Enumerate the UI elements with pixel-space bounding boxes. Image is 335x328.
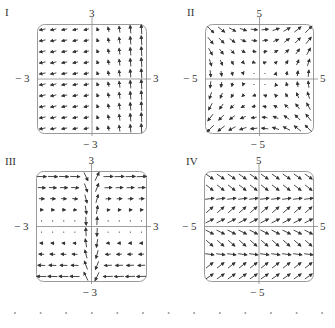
tick-label-bottom: − 5: [250, 286, 264, 298]
vector-arrow: [239, 185, 246, 190]
vector-arrow: [295, 38, 300, 43]
vector-arrow: [108, 71, 109, 76]
vector-arrow: [294, 174, 301, 179]
vector-arrow: [286, 94, 288, 98]
vector-arrow: [217, 274, 224, 279]
vector-arrow: [40, 117, 46, 118]
vector-arrow: [221, 71, 222, 76]
vector-arrow: [96, 239, 97, 247]
vector-arrow: [40, 51, 46, 52]
vector-arrow: [283, 207, 290, 213]
vector-arrow: [40, 73, 46, 74]
vector-arrow: [243, 72, 244, 74]
vector-arrow: [51, 117, 57, 118]
vector-arrow: [238, 254, 247, 255]
vector-arrow: [62, 29, 67, 30]
vector-arrow: [119, 92, 120, 98]
tick-label-right: 5: [320, 72, 326, 84]
vector-arrow: [73, 95, 78, 96]
vector-arrow: [97, 127, 98, 130]
vector-arrow: [261, 263, 268, 268]
vector-arrow: [210, 70, 211, 77]
tick-label-bottom: − 5: [251, 138, 265, 150]
vector-arrow: [241, 105, 245, 107]
vector-arrow: [253, 95, 255, 96]
vector-arrow: [274, 105, 278, 107]
vector-arrow: [304, 198, 313, 199]
vector-arrow: [73, 117, 78, 118]
vector-arrow: [250, 274, 257, 279]
vector-arrow: [283, 185, 290, 190]
tick-label-left: − 3: [15, 72, 29, 84]
vector-arrow: [240, 127, 247, 129]
vector-arrow: [304, 254, 313, 255]
vector-arrow: [62, 40, 67, 41]
vector-arrow: [73, 62, 78, 63]
vector-arrow: [130, 26, 131, 34]
vector-arrow: [205, 254, 214, 255]
vector-arrow: [305, 185, 312, 190]
vector-arrow: [218, 126, 225, 131]
vector-arrow: [108, 49, 109, 54]
vector-arrow: [62, 95, 67, 96]
vector-arrow: [239, 174, 246, 179]
vector-arrow: [283, 28, 290, 32]
vector-arrow: [260, 254, 269, 255]
vector-arrow: [84, 40, 89, 41]
vector-arrow: [261, 185, 268, 190]
vector-arrow: [119, 59, 120, 65]
panel-label-iii: III: [5, 155, 16, 167]
vector-arrow: [84, 29, 89, 30]
vector-arrow: [293, 254, 302, 255]
vector-arrow: [62, 128, 67, 129]
vector-arrow: [305, 207, 312, 213]
tick-label-bottom: − 3: [83, 138, 97, 150]
vector-arrow: [85, 250, 87, 258]
vector-arrow: [250, 240, 257, 246]
vector-arrow: [84, 172, 88, 180]
vector-arrow: [141, 25, 142, 34]
vector-arrow: [108, 93, 109, 98]
vector-arrow: [272, 174, 279, 179]
vector-arrow: [130, 92, 131, 100]
vector-arrow: [239, 240, 246, 246]
vector-arrow: [284, 116, 289, 120]
vector-arrow: [217, 219, 225, 223]
vector-arrow: [307, 103, 311, 110]
vector-arrow: [206, 230, 214, 234]
vector-arrow: [40, 62, 46, 63]
vector-arrow: [262, 128, 269, 129]
vector-arrow: [283, 127, 290, 131]
vector-arrow: [228, 185, 235, 190]
vector-arrow: [73, 51, 78, 52]
panel-label-iv: IV: [186, 155, 198, 167]
vector-arrow: [62, 51, 67, 52]
vector-arrow: [262, 40, 267, 41]
vector-arrow: [239, 219, 247, 223]
vector-arrow: [130, 70, 131, 78]
vector-arrow: [272, 219, 280, 223]
vector-arrow: [250, 185, 257, 190]
vector-arrow: [84, 84, 89, 85]
vector-arrow: [242, 94, 244, 96]
vector-arrow: [51, 29, 57, 30]
vector-arrow: [95, 172, 99, 180]
vector-arrow: [84, 261, 87, 269]
vector-arrow: [130, 59, 131, 67]
vector-arrow: [130, 103, 131, 111]
vector-arrow: [252, 106, 256, 107]
vector-arrow: [250, 219, 258, 223]
vector-arrow: [305, 274, 312, 279]
vector-arrow: [241, 39, 246, 41]
vector-arrow: [210, 81, 211, 88]
vector-arrow: [306, 114, 311, 121]
vector-arrow: [272, 207, 279, 213]
tick-label-right: 3: [153, 72, 159, 84]
vector-arrow: [261, 174, 268, 179]
vector-arrow: [273, 39, 278, 41]
vector-arrow: [119, 26, 120, 32]
vector-arrow: [261, 240, 268, 246]
vector-arrow: [73, 106, 78, 107]
vector-arrow: [95, 272, 99, 280]
vector-arrow: [130, 114, 131, 122]
